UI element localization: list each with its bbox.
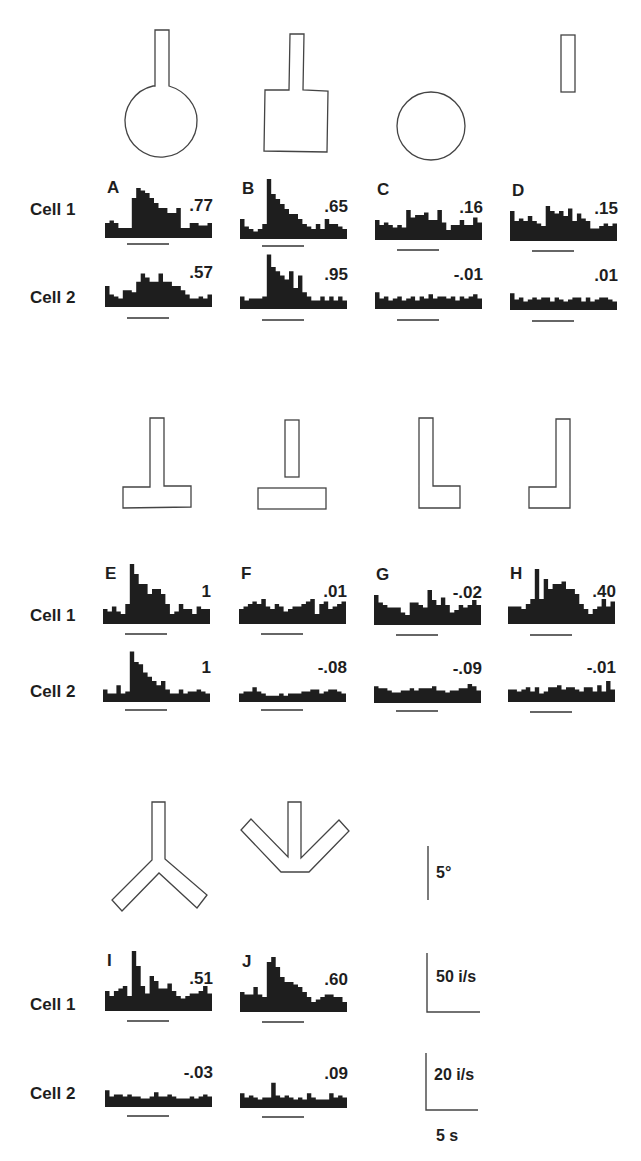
response-index-h-cell1: .40 bbox=[592, 582, 616, 601]
panel-letter-c: C bbox=[377, 180, 389, 199]
response-index-i-cell2: -.03 bbox=[184, 1063, 213, 1082]
response-index-a-cell1: .77 bbox=[189, 196, 213, 215]
histogram-h-cell2 bbox=[508, 681, 615, 702]
histogram-f-cell2 bbox=[239, 687, 346, 702]
response-index-c-cell2: -.01 bbox=[454, 265, 483, 284]
shape-e-inverted-t bbox=[123, 418, 191, 508]
shape-g-l bbox=[419, 418, 460, 508]
histogram-f-cell1 bbox=[239, 599, 346, 624]
row-label-cell2-bot: Cell 2 bbox=[30, 1084, 75, 1103]
response-index-c-cell1: .16 bbox=[459, 198, 483, 217]
shape-b-square-with-stem bbox=[264, 34, 328, 152]
panel-letter-f: F bbox=[241, 564, 251, 583]
response-index-b-cell1: .65 bbox=[324, 197, 348, 216]
panel-letter-e: E bbox=[105, 564, 116, 583]
stimulus-shapes bbox=[112, 30, 575, 911]
figure-canvas: Cell 1 Cell 2 Cell 1 Cell 2 Cell 1 Cell … bbox=[0, 0, 641, 1161]
row-label-cell1-mid: Cell 1 bbox=[30, 606, 75, 625]
response-index-a-cell2: .57 bbox=[189, 263, 213, 282]
panel-letter-i: I bbox=[107, 951, 112, 970]
shape-c-circle bbox=[397, 92, 465, 160]
histograms: .77.57A.65.95B.16-.01C.15.01D11E.01-.08F… bbox=[103, 178, 618, 1117]
histogram-d-cell2 bbox=[510, 293, 617, 310]
response-index-e-cell2: 1 bbox=[202, 658, 211, 677]
panel-letter-j: J bbox=[242, 952, 251, 971]
response-index-j-cell1: .60 bbox=[324, 970, 348, 989]
row-labels: Cell 1 Cell 2 Cell 1 Cell 2 Cell 1 Cell … bbox=[30, 200, 75, 1103]
row-label-cell2-mid: Cell 2 bbox=[30, 682, 75, 701]
response-index-d-cell2: .01 bbox=[594, 266, 618, 285]
shape-a-circle-with-stem bbox=[125, 30, 197, 157]
response-index-g-cell1: -.02 bbox=[453, 583, 482, 602]
row-label-cell1-top: Cell 1 bbox=[30, 200, 75, 219]
panel-letter-h: H bbox=[510, 564, 522, 583]
row-label-cell1-bot: Cell 1 bbox=[30, 995, 75, 1014]
histogram-g-cell2 bbox=[374, 684, 481, 703]
response-index-g-cell2: -.09 bbox=[453, 659, 482, 678]
response-index-i-cell1: .51 bbox=[189, 969, 213, 988]
response-index-e-cell1: 1 bbox=[202, 582, 211, 601]
histogram-j-cell2 bbox=[240, 1083, 347, 1108]
scale-label-rate-cell2: 20 i/s bbox=[434, 1066, 474, 1083]
histogram-e-cell1 bbox=[103, 564, 210, 624]
response-index-f-cell2: -.08 bbox=[318, 658, 347, 677]
scale-label-angle: 5° bbox=[436, 864, 451, 881]
panel-letter-g: G bbox=[376, 565, 389, 584]
histogram-e-cell2 bbox=[103, 652, 210, 702]
shape-f-bar bbox=[258, 488, 326, 509]
histogram-c-cell2 bbox=[375, 292, 482, 309]
panel-letter-d: D bbox=[512, 181, 524, 200]
shape-d-stem bbox=[561, 35, 575, 92]
response-index-f-cell1: .01 bbox=[323, 582, 347, 601]
scale-label-time: 5 s bbox=[436, 1127, 458, 1144]
shape-h-mirror-l bbox=[529, 419, 570, 508]
panel-letter-a: A bbox=[107, 178, 119, 197]
shape-f-stem bbox=[285, 420, 299, 477]
histogram-i-cell2 bbox=[105, 1090, 212, 1107]
shape-i-y bbox=[112, 802, 207, 911]
shape-j-arrow-down bbox=[241, 802, 349, 872]
scale-labels: 5° 50 i/s 20 i/s 5 s bbox=[434, 864, 476, 1144]
response-index-b-cell2: .95 bbox=[324, 265, 348, 284]
row-label-cell2-top: Cell 2 bbox=[30, 288, 75, 307]
panel-letter-b: B bbox=[242, 179, 254, 198]
response-index-j-cell2: .09 bbox=[324, 1064, 348, 1083]
response-index-d-cell1: .15 bbox=[594, 199, 618, 218]
scale-label-rate-cell1: 50 i/s bbox=[436, 968, 476, 985]
response-index-h-cell2: -.01 bbox=[587, 658, 616, 677]
